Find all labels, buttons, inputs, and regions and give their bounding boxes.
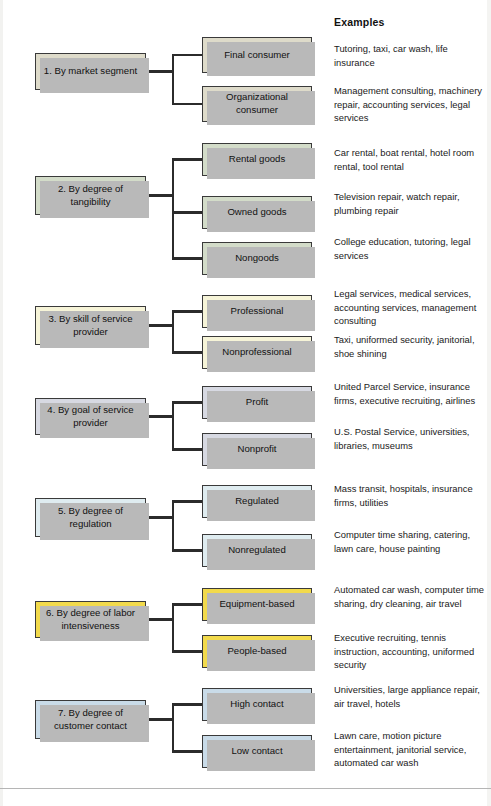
examples-text-degree-of-customer-contact-0: Universities, large appliance repair, ai…	[334, 683, 486, 710]
category-box-goal-of-service-provider: 4. By goal of service provider	[35, 398, 146, 435]
subcategory-label: Equipment-based	[215, 598, 298, 611]
subcategory-label: Organizational consumer	[203, 91, 311, 116]
examples-text-skill-of-service-provider-1: Taxi, uniformed security, janitorial, sh…	[334, 333, 486, 360]
connector-branch-degree-of-customer-contact-1	[172, 750, 202, 752]
subcategory-box-degree-of-tangibility-0: Rental goods	[202, 143, 312, 176]
subcategory-box-degree-of-tangibility-2: Nongoods	[202, 242, 312, 275]
connector-stem-goal-of-service-provider	[146, 415, 174, 417]
connector-stem-degree-of-regulation	[146, 516, 174, 518]
examples-text-goal-of-service-provider-0: United Parcel Service, insurance firms, …	[334, 380, 486, 407]
category-box-degree-of-regulation: 5. By degree of regulation	[35, 498, 146, 537]
examples-text-market-segment-0: Tutoring, taxi, car wash, life insurance	[334, 42, 486, 69]
examples-text-degree-of-tangibility-2: College education, tutoring, legal servi…	[334, 235, 486, 262]
subcategory-box-market-segment-0: Final consumer	[202, 37, 312, 73]
connector-spine-degree-of-regulation	[172, 500, 174, 551]
connector-spine-goal-of-service-provider	[172, 401, 174, 450]
connector-branch-degree-of-customer-contact-0	[172, 703, 202, 705]
category-label: 4. By goal of service provider	[36, 404, 145, 429]
subcategory-box-goal-of-service-provider-0: Profit	[202, 386, 312, 419]
bottom-divider	[0, 788, 491, 789]
connector-branch-goal-of-service-provider-0	[172, 401, 202, 403]
connector-stem-skill-of-service-provider	[146, 324, 174, 326]
examples-text-skill-of-service-provider-0: Legal services, medical services, accoun…	[334, 287, 486, 328]
connector-branch-market-segment-0	[172, 54, 202, 56]
subcategory-label: Professional	[227, 305, 288, 318]
category-box-degree-of-labor-intensiveness: 6. By degree of labor intensiveness	[35, 601, 146, 638]
subcategory-label: Nonprofessional	[218, 346, 295, 359]
connector-branch-degree-of-regulation-1	[172, 549, 202, 551]
subcategory-label: Nonprofit	[234, 443, 281, 456]
subcategory-label: Regulated	[231, 495, 283, 508]
subcategory-box-market-segment-1: Organizational consumer	[202, 86, 312, 122]
category-label: 7. By degree of customer contact	[36, 707, 145, 732]
connector-branch-degree-of-tangibility-0	[172, 158, 202, 160]
subcategory-label: Nongoods	[231, 252, 283, 265]
subcategory-box-skill-of-service-provider-0: Professional	[202, 295, 312, 328]
examples-text-degree-of-customer-contact-1: Lawn care, motion picture entertainment,…	[334, 729, 486, 770]
subcategory-label: Rental goods	[225, 153, 290, 166]
subcategory-box-degree-of-labor-intensiveness-0: Equipment-based	[202, 588, 312, 621]
connector-branch-degree-of-tangibility-1	[172, 211, 202, 213]
examples-text-degree-of-labor-intensiveness-1: Executive recruiting, tennis instruction…	[334, 631, 486, 672]
connector-branch-goal-of-service-provider-1	[172, 448, 202, 450]
subcategory-box-degree-of-customer-contact-0: High contact	[202, 688, 312, 721]
subcategory-label: Nonregulated	[224, 544, 290, 557]
connector-stem-market-segment	[146, 70, 174, 72]
connector-stem-degree-of-labor-intensiveness	[146, 618, 174, 620]
connector-branch-degree-of-labor-intensiveness-0	[172, 603, 202, 605]
connector-branch-degree-of-labor-intensiveness-1	[172, 650, 202, 652]
subcategory-label: Owned goods	[223, 206, 290, 219]
connector-spine-skill-of-service-provider	[172, 310, 174, 353]
examples-text-goal-of-service-provider-1: U.S. Postal Service, universities, libra…	[334, 425, 486, 452]
subcategory-label: Final consumer	[220, 49, 294, 62]
category-box-degree-of-customer-contact: 7. By degree of customer contact	[35, 700, 146, 739]
subcategory-box-skill-of-service-provider-1: Nonprofessional	[202, 336, 312, 369]
subcategory-box-degree-of-regulation-1: Nonregulated	[202, 534, 312, 567]
examples-text-degree-of-labor-intensiveness-0: Automated car wash, computer time sharin…	[334, 583, 486, 610]
examples-text-degree-of-regulation-1: Computer time sharing, catering, lawn ca…	[334, 528, 486, 555]
category-label: 2. By degree of tangibility	[36, 183, 145, 208]
examples-text-degree-of-regulation-0: Mass transit, hospitals, insurance firms…	[334, 482, 486, 509]
category-box-skill-of-service-provider: 3. By skill of service provider	[35, 306, 146, 345]
connector-spine-degree-of-customer-contact	[172, 703, 174, 752]
connector-spine-market-segment	[172, 54, 174, 105]
category-label: 3. By skill of service provider	[36, 313, 145, 338]
category-label: 6. By degree of labor intensiveness	[36, 607, 145, 632]
subcategory-label: High contact	[226, 698, 287, 711]
subcategory-box-degree-of-customer-contact-1: Low contact	[202, 735, 312, 768]
subcategory-box-degree-of-regulation-0: Regulated	[202, 485, 312, 518]
subcategory-box-degree-of-tangibility-1: Owned goods	[202, 196, 312, 229]
subcategory-label: Profit	[242, 396, 272, 409]
page-edge-right	[487, 0, 491, 806]
connector-branch-degree-of-tangibility-2	[172, 257, 202, 259]
category-box-degree-of-tangibility: 2. By degree of tangibility	[35, 176, 146, 215]
subcategory-box-goal-of-service-provider-1: Nonprofit	[202, 433, 312, 466]
category-label: 1. By market segment	[40, 65, 141, 78]
subcategory-box-degree-of-labor-intensiveness-1: People-based	[202, 635, 312, 668]
diagram-canvas: Examples 1. By market segmentFinal consu…	[0, 0, 491, 806]
examples-text-market-segment-1: Management consulting, machinery repair,…	[334, 84, 486, 125]
examples-text-degree-of-tangibility-1: Television repair, watch repair, plumbin…	[334, 190, 486, 217]
connector-spine-degree-of-labor-intensiveness	[172, 603, 174, 652]
subcategory-label: Low contact	[227, 745, 286, 758]
connector-branch-market-segment-1	[172, 103, 202, 105]
connector-branch-skill-of-service-provider-0	[172, 310, 202, 312]
connector-branch-degree-of-regulation-0	[172, 500, 202, 502]
connector-stem-degree-of-tangibility	[146, 194, 174, 196]
page-edge-left	[0, 0, 3, 806]
connector-spine-degree-of-tangibility	[172, 158, 174, 259]
examples-column-header: Examples	[334, 16, 385, 28]
connector-branch-skill-of-service-provider-1	[172, 351, 202, 353]
connector-stem-degree-of-customer-contact	[146, 718, 174, 720]
category-label: 5. By degree of regulation	[36, 505, 145, 530]
subcategory-label: People-based	[223, 645, 290, 658]
examples-text-degree-of-tangibility-0: Car rental, boat rental, hotel room rent…	[334, 146, 486, 173]
category-box-market-segment: 1. By market segment	[35, 53, 146, 90]
